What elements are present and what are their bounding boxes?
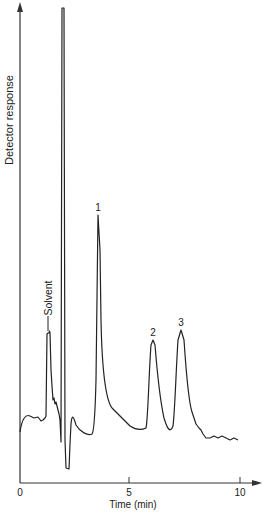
y-axis-arrow-icon	[17, 2, 23, 12]
x-axis-label: Time (min)	[109, 499, 156, 510]
chromatogram-trace	[20, 8, 238, 469]
chromatogram-chart: Detector response 0 5 10 Time (min) Solv…	[0, 0, 264, 512]
peak-3-label: 3	[178, 317, 184, 328]
y-axis	[17, 2, 23, 483]
y-axis-label: Detector response	[3, 75, 15, 165]
x-axis-arrow-icon	[252, 480, 262, 486]
x-axis	[20, 477, 262, 486]
peak-1-label: 1	[95, 202, 101, 213]
x-tick-5: 5	[126, 487, 132, 498]
x-tick-0: 0	[17, 487, 23, 498]
peak-2-label: 2	[150, 327, 156, 338]
solvent-label: Solvent	[42, 280, 54, 315]
x-tick-10: 10	[234, 487, 246, 498]
